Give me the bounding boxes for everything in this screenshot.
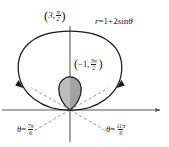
- equation-variable: θ: [128, 16, 132, 26]
- angle-label-right: θ=11π6: [106, 123, 127, 137]
- angle-right-denominator: 6: [118, 129, 123, 136]
- point-inner-r: −1: [78, 59, 87, 69]
- point-top-close-paren: ): [61, 9, 65, 22]
- point-top-theta-numerator: π: [56, 9, 61, 16]
- point-label-inner: (−1,3π2): [74, 58, 103, 72]
- angle-left-denominator: 6: [28, 129, 33, 136]
- equation-label: r=1+2sinθ: [95, 17, 133, 26]
- point-inner-close-paren: ): [98, 58, 102, 70]
- point-top-theta-fraction: π2: [56, 9, 61, 24]
- angle-right-fraction: 11π6: [115, 123, 126, 137]
- point-top-theta-denominator: 2: [56, 15, 61, 23]
- angle-right-equals: =: [110, 124, 115, 134]
- equation-trig-function: sin: [118, 16, 129, 26]
- point-label-top: (3,π2): [44, 9, 66, 24]
- point-top-open-paren: (: [44, 9, 48, 22]
- point-inner-theta-denominator: 2: [91, 64, 96, 71]
- point-inner-theta-fraction: 3π2: [90, 58, 98, 72]
- angle-label-left: θ=7π6: [17, 123, 35, 137]
- angle-left-fraction: 7π6: [26, 123, 34, 137]
- angle-left-equals: =: [21, 124, 26, 134]
- point-inner-open-paren: (: [74, 58, 78, 70]
